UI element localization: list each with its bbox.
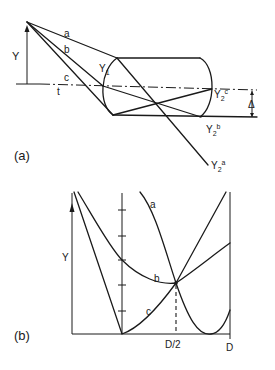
height-label: Y: [12, 50, 20, 62]
axis-t-label: t: [57, 86, 60, 97]
cylinder-bottom-edge: [113, 115, 257, 117]
exit-b-label: Y2b: [206, 123, 221, 137]
curve-a-label: a: [150, 199, 156, 210]
panel-b: Y a b c D/2 D (b): [14, 192, 233, 353]
delta-arrow-top-icon: [250, 91, 254, 95]
ray-a-label: a: [64, 28, 70, 39]
diagram-figure: Y a b c t Y1 Y2c Y2b Y2a Δ (: [0, 0, 275, 370]
exit-c-label: Y2c: [214, 88, 229, 102]
height-arrow-head-icon: [25, 25, 30, 32]
ray-c-label: c: [64, 72, 69, 83]
panel-a: Y a b c t Y1 Y2c Y2b Y2a Δ (: [12, 22, 257, 173]
ray-b-refracted: [103, 86, 201, 117]
intersection-point: [174, 281, 178, 285]
panel-a-label: (a): [14, 148, 30, 163]
x-tick-half-d: D/2: [165, 339, 181, 350]
curve-b-label: b: [154, 273, 160, 284]
ray-a-incident: [27, 22, 117, 58]
curve-a: [140, 192, 230, 334]
x-tick-d: D: [226, 342, 233, 353]
y-axis-arrow-icon: [70, 203, 75, 212]
diagram-canvas: Y a b c t Y1 Y2c Y2b Y2a Δ (: [0, 0, 275, 370]
panel-b-label: (b): [14, 328, 30, 343]
delta-label: Δ: [248, 99, 255, 110]
cylinder-right-ellipse: [200, 58, 212, 117]
curve-c-label: c: [146, 306, 151, 317]
entry-point-label: Y1: [99, 63, 110, 76]
ray-a-refracted: [117, 58, 208, 165]
ray-b-label: b: [64, 44, 70, 55]
y-axis-label: Y: [62, 252, 69, 263]
exit-a-label: Y2a: [211, 159, 226, 173]
